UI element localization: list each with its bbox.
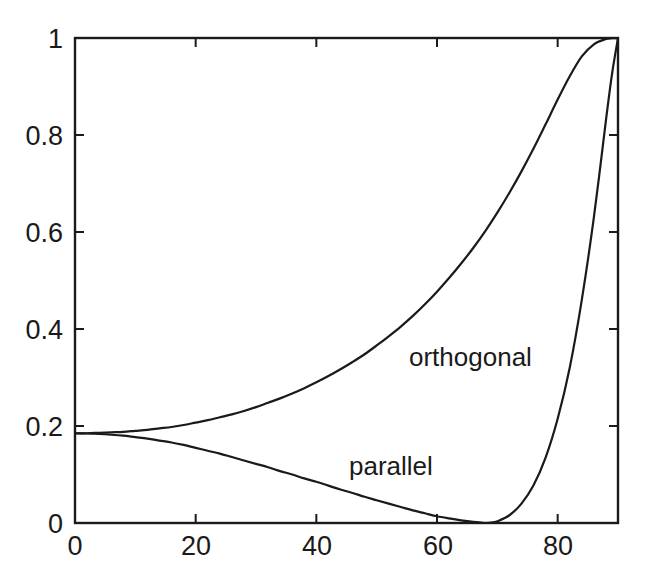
plot-canvas <box>0 0 653 583</box>
x-tick-label-20: 20 <box>166 531 226 562</box>
curve-parallel <box>75 38 618 523</box>
tick-marks <box>75 38 618 523</box>
x-tick-label-0: 0 <box>45 531 105 562</box>
series-layer <box>75 38 618 523</box>
x-tick-label-40: 40 <box>287 531 347 562</box>
y-tick-label-0-6: 0.6 <box>25 218 63 249</box>
y-tick-label-0-4: 0.4 <box>25 315 63 346</box>
y-tick-label-0-8: 0.8 <box>25 121 63 152</box>
y-tick-label-0-2: 0.2 <box>25 412 63 443</box>
fresnel-reflectance-chart: 10.80.60.40.20 020406080 orthogonal para… <box>0 0 653 583</box>
x-tick-label-80: 80 <box>528 531 588 562</box>
curve-orthogonal <box>75 38 618 433</box>
x-tick-label-60: 60 <box>408 531 468 562</box>
axis-frame <box>75 38 618 523</box>
curve-label-orthogonal: orthogonal <box>409 342 532 373</box>
y-tick-label-1: 1 <box>48 24 63 55</box>
curve-label-parallel: parallel <box>349 451 433 482</box>
